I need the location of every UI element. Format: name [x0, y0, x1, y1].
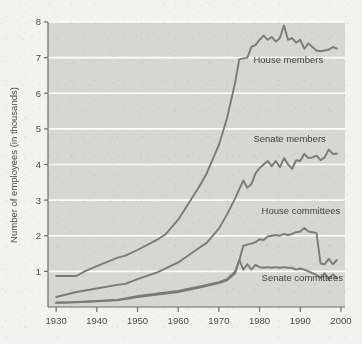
- x-tick-label: 1950: [127, 315, 148, 326]
- x-tick-label: 1990: [290, 315, 311, 326]
- y-tick-label: 5: [36, 123, 41, 134]
- y-tick-label: 3: [36, 195, 41, 206]
- x-tick-label: 2000: [330, 315, 351, 326]
- series-label: Senate members: [253, 133, 326, 144]
- x-tick-label: 1930: [46, 315, 67, 326]
- line-chart: 12345678 1930194019501960197019801990200…: [0, 0, 362, 344]
- y-tick-label: 1: [36, 266, 41, 277]
- y-tick-label: 6: [36, 88, 41, 99]
- series-label: House committees: [262, 205, 341, 216]
- series-label: Senate committees: [262, 272, 344, 283]
- y-axis-title: Number of employees (in thousands): [8, 87, 19, 243]
- x-tick-label: 1940: [86, 315, 107, 326]
- y-tick-label: 8: [36, 16, 41, 27]
- chart-figure: 12345678 1930194019501960197019801990200…: [0, 0, 362, 344]
- y-tick-label: 4: [36, 159, 41, 170]
- y-tick-label: 7: [36, 52, 41, 63]
- series-label: House members: [253, 54, 323, 65]
- x-tick-label: 1980: [249, 315, 270, 326]
- x-tick-label: 1960: [168, 315, 189, 326]
- y-tick-label: 2: [36, 230, 41, 241]
- x-tick-label: 1970: [208, 315, 229, 326]
